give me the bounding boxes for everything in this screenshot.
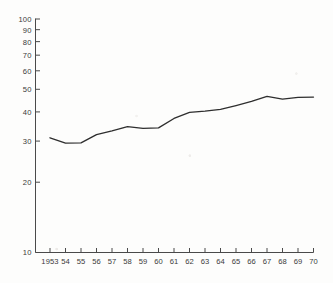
x-tick-label: 59 — [139, 257, 148, 266]
x-tick-label: 69 — [294, 257, 303, 266]
y-tick-label: 90 — [23, 26, 32, 35]
x-tick-label: 1953 — [41, 257, 58, 266]
x-tick-label: 60 — [154, 257, 163, 266]
x-tick-label: 66 — [247, 257, 256, 266]
x-tick-label: 55 — [77, 257, 86, 266]
x-tick-label: 65 — [232, 257, 241, 266]
y-tick-label: 60 — [23, 67, 32, 76]
x-tick-label: 63 — [201, 257, 210, 266]
x-tick-label: 67 — [263, 257, 272, 266]
x-axis: 19535455565758596061626364656667686970 — [36, 248, 318, 266]
line-chart-plot: 102030405060708090100 195354555657585960… — [0, 0, 333, 283]
x-tick-label: 58 — [123, 257, 132, 266]
y-tick-label: 10 — [23, 248, 32, 257]
y-tick-label: 30 — [23, 137, 32, 146]
y-tick-label: 100 — [19, 15, 32, 24]
x-tick-label: 61 — [170, 257, 179, 266]
y-tick-label: 50 — [23, 85, 32, 94]
y-tick-label: 20 — [23, 178, 32, 187]
x-tick-label: 56 — [92, 257, 101, 266]
y-tick-label: 70 — [23, 51, 32, 60]
x-tick-label: 62 — [185, 257, 194, 266]
x-tick-label: 70 — [309, 257, 318, 266]
x-tick-label: 57 — [108, 257, 117, 266]
y-tick-label: 40 — [23, 108, 32, 117]
x-tick-label: 54 — [61, 257, 70, 266]
y-tick-label: 80 — [23, 38, 32, 47]
x-tick-label: 68 — [278, 257, 287, 266]
data-line — [50, 96, 314, 143]
data-series-group — [50, 96, 314, 143]
x-tick-label: 64 — [216, 257, 225, 266]
y-axis: 102030405060708090100 — [19, 15, 40, 258]
chart-figure: 102030405060708090100 195354555657585960… — [0, 0, 333, 283]
